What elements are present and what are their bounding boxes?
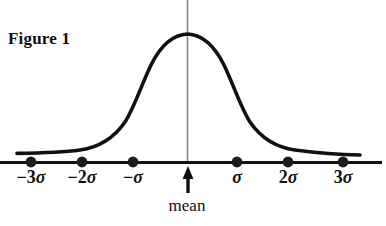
- sigma-symbol: σ: [288, 167, 298, 187]
- sigma-symbol: σ: [36, 167, 46, 187]
- normal-distribution-curve: [17, 34, 360, 155]
- sigma-dot-minus-2: [77, 157, 88, 168]
- tick-coefficient: 2: [279, 167, 288, 187]
- minus-sign: −: [68, 167, 78, 187]
- sigma-symbol: σ: [232, 167, 242, 187]
- tick-label-minus-2-sigma: −2σ: [68, 168, 97, 186]
- sigma-symbol: σ: [133, 167, 143, 187]
- minus-sign: −: [17, 167, 27, 187]
- tick-coefficient: 3: [27, 167, 36, 187]
- sigma-dot-plus-3: [338, 157, 349, 168]
- tick-coefficient: 3: [334, 167, 343, 187]
- figure-container: Figure 1 −3σ −2σ −σ σ 2σ 3σ mean: [0, 0, 386, 226]
- sigma-dot-plus-2: [283, 157, 294, 168]
- mean-label: mean: [169, 197, 206, 214]
- tick-label-plus-3-sigma: 3σ: [334, 168, 353, 186]
- tick-label-plus-2-sigma: 2σ: [279, 168, 298, 186]
- minus-sign: −: [123, 167, 133, 187]
- sigma-symbol: σ: [87, 167, 97, 187]
- mean-arrow-icon: [183, 166, 194, 193]
- figure-caption: Figure 1: [8, 30, 70, 47]
- tick-label-minus-1-sigma: −σ: [123, 168, 143, 186]
- sigma-dot-plus-1: [232, 157, 243, 168]
- sigma-dot-minus-3: [26, 157, 37, 168]
- tick-label-minus-3-sigma: −3σ: [17, 168, 46, 186]
- sigma-symbol: σ: [343, 167, 353, 187]
- tick-coefficient: 2: [78, 167, 87, 187]
- sigma-dot-minus-1: [128, 157, 139, 168]
- tick-label-plus-1-sigma: σ: [232, 168, 242, 186]
